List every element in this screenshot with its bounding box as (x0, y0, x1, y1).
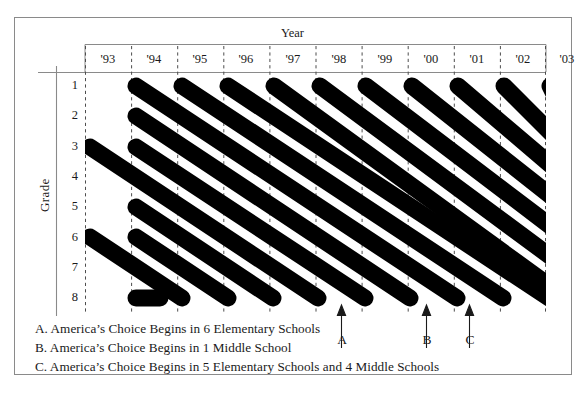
legend-item-b: B. America’s Choice Begins in 1 Middle S… (35, 341, 291, 354)
x-axis-title: Year (281, 27, 304, 40)
y-tick-grade-8: 8 (62, 291, 78, 304)
cohort-progression-figure: Year '93 '94 '95 '96 '97 '98 '99 '00 '01… (0, 0, 588, 397)
x-tick-2002: '02 (500, 53, 546, 66)
y-tick-grade-2: 2 (62, 109, 78, 122)
y-tick-grade-4: 4 (62, 170, 78, 183)
y-axis-title: Grade (38, 178, 51, 212)
x-tick-1995: '95 (177, 53, 223, 66)
x-tick-2003: '03 (546, 53, 588, 66)
annotation-label-b: B (420, 333, 434, 347)
x-tick-1994: '94 (131, 53, 177, 66)
annotation-label-a: A (335, 333, 349, 347)
x-tick-2000: '00 (408, 53, 454, 66)
x-tick-1996: '96 (223, 53, 269, 66)
x-tick-2001: '01 (454, 53, 500, 66)
y-tick-grade-1: 1 (62, 79, 78, 92)
annotation-label-c: C (463, 333, 477, 347)
y-tick-grade-6: 6 (62, 231, 78, 244)
x-tick-1993: '93 (85, 53, 131, 66)
y-tick-grade-3: 3 (62, 140, 78, 153)
x-tick-1998: '98 (316, 53, 362, 66)
legend-item-a: A. America’s Choice Begins in 6 Elementa… (35, 322, 320, 335)
legend-item-c: C. America’s Choice Begins in 5 Elementa… (35, 360, 439, 373)
x-tick-1997: '97 (270, 53, 316, 66)
y-tick-grade-7: 7 (62, 261, 78, 274)
y-tick-grade-5: 5 (62, 200, 78, 213)
x-tick-1999: '99 (362, 53, 408, 66)
